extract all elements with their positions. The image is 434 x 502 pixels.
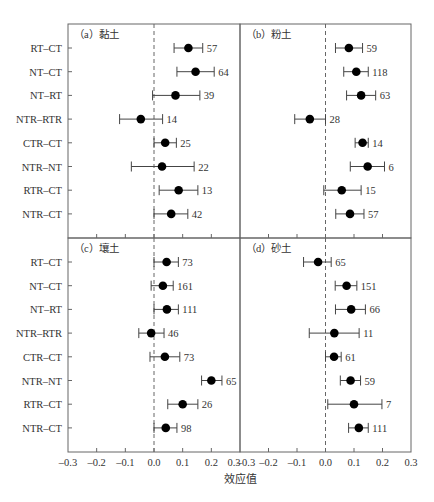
sample-size-label: 161: [177, 281, 193, 292]
point-estimate: [207, 376, 216, 385]
sample-size-label: 73: [182, 257, 193, 268]
sample-size-label: 59: [365, 376, 376, 387]
point-estimate: [314, 258, 323, 267]
point-estimate: [161, 139, 170, 148]
data-row: 28: [295, 114, 340, 125]
sample-size-label: 63: [380, 90, 391, 101]
sample-size-label: 73: [184, 352, 195, 363]
x-tick-label: 0.1: [176, 457, 189, 468]
sample-size-label: 28: [330, 114, 341, 125]
data-row: 161: [68, 281, 193, 292]
data-row: 13: [68, 185, 212, 196]
point-estimate: [171, 91, 180, 100]
sample-size-label: 39: [204, 90, 215, 101]
sample-size-label: 46: [168, 328, 179, 339]
data-row: 111: [349, 423, 388, 434]
data-row: 65: [304, 257, 346, 268]
x-tick-label: –0.1: [115, 457, 134, 468]
data-row: 57: [68, 43, 217, 54]
x-tick-label: –0.1: [287, 457, 306, 468]
x-tick-label: 0.2: [205, 457, 218, 468]
data-row: 57: [336, 209, 379, 220]
sample-size-label: 64: [218, 67, 229, 78]
panel-title: （b）粉土: [246, 28, 291, 40]
point-estimate: [363, 162, 372, 171]
data-row: 15: [324, 185, 376, 196]
data-row: 65: [68, 376, 236, 387]
sample-size-label: 6: [388, 162, 393, 173]
x-tick-label: 0.3: [404, 457, 417, 468]
sample-size-label: 57: [207, 43, 218, 54]
point-estimate: [191, 67, 200, 76]
sample-size-label: 22: [198, 162, 209, 173]
sample-size-label: 98: [181, 423, 192, 434]
point-estimate: [137, 115, 146, 124]
data-row: 59: [335, 43, 377, 54]
x-axis-title: 效应值: [224, 472, 257, 485]
point-estimate: [355, 424, 364, 433]
forest-plot-svg: （a）黏土5764391425221342（b）粉土59118632814615…: [0, 0, 434, 502]
y-category-label: RT–CT: [31, 43, 63, 54]
x-tick-label: –0.2: [258, 457, 277, 468]
sample-size-label: 118: [372, 67, 387, 78]
y-category-label: NTR–CT: [22, 423, 62, 434]
point-estimate: [161, 424, 170, 433]
point-estimate: [337, 186, 346, 195]
y-category-label: NTR–RTR: [16, 114, 62, 125]
panel-b: （b）粉土5911863281461557: [240, 24, 411, 238]
sample-size-label: 65: [335, 257, 346, 268]
sample-size-label: 61: [345, 352, 356, 363]
data-row: 14: [355, 138, 383, 149]
x-tick-label: –0.3: [58, 457, 77, 468]
forest-plot: （a）黏土5764391425221342（b）粉土59118632814615…: [0, 0, 434, 502]
sample-size-label: 111: [372, 423, 387, 434]
data-row: 14: [68, 114, 178, 125]
point-estimate: [346, 376, 355, 385]
y-category-label: CTR–CT: [23, 352, 63, 363]
data-row: 151: [335, 281, 376, 292]
data-row: 26: [68, 399, 212, 410]
sample-size-label: 14: [167, 114, 178, 125]
panel-c: （c）壤土731611114673652698: [68, 238, 240, 452]
x-tick-label: 0.1: [347, 457, 360, 468]
point-estimate: [163, 305, 172, 314]
y-category-label: RTR–CT: [24, 185, 63, 196]
point-estimate: [162, 258, 171, 267]
panel-a: （a）黏土5764391425221342: [68, 24, 240, 238]
point-estimate: [147, 329, 156, 338]
point-estimate: [158, 162, 167, 171]
sample-size-label: 57: [368, 209, 379, 220]
point-estimate: [159, 281, 168, 290]
sample-size-label: 59: [367, 43, 378, 54]
sample-size-label: 66: [369, 304, 380, 315]
data-row: 66: [335, 304, 379, 315]
sample-size-label: 11: [363, 328, 373, 339]
data-row: 64: [68, 67, 229, 78]
point-estimate: [347, 305, 356, 314]
point-estimate: [167, 210, 176, 219]
y-category-label: NT–RT: [30, 304, 63, 315]
sample-size-label: 14: [372, 138, 383, 149]
x-tick-label: 0.0: [147, 457, 160, 468]
data-row: 61: [326, 352, 356, 363]
sample-size-label: 42: [192, 209, 203, 220]
y-category-label: RTR–CT: [24, 399, 63, 410]
data-row: 22: [68, 162, 209, 173]
y-category-label: NT–CT: [29, 67, 62, 78]
y-category-label: RT–CT: [31, 257, 63, 268]
y-category-label: NTR–RTR: [16, 328, 62, 339]
point-estimate: [306, 115, 315, 124]
y-axis-labels: RT–CTNT–CTNT–RTNTR–RTRCTR–CTNTR–NTRTR–CT…: [16, 43, 63, 434]
sample-size-label: 65: [226, 376, 237, 387]
data-row: 39: [68, 90, 214, 101]
point-estimate: [352, 67, 361, 76]
x-tick-label: 0.2: [376, 457, 389, 468]
panels-layer: （a）黏土5764391425221342（b）粉土59118632814615…: [68, 24, 411, 452]
y-category-label: CTR–CT: [23, 138, 63, 149]
sample-size-label: 15: [365, 185, 376, 196]
data-row: 59: [340, 376, 375, 387]
data-row: 42: [68, 209, 202, 220]
data-row: 46: [68, 328, 179, 339]
y-category-label: NT–RT: [30, 90, 63, 101]
panel-title: （d）砂土: [246, 242, 291, 254]
